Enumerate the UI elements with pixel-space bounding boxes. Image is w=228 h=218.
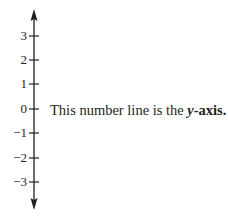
tick-label: 1 <box>5 77 27 91</box>
tick-label: −1 <box>5 126 27 140</box>
tick-label: 2 <box>5 53 27 67</box>
tick-label: −2 <box>5 151 27 165</box>
tick-label: 3 <box>5 29 27 43</box>
tick-label: −3 <box>5 175 27 189</box>
tick-label: 0 <box>5 102 27 116</box>
caption-axis-suffix: -axis. <box>194 102 227 118</box>
caption-text: This number line is the <box>50 102 187 118</box>
caption-axis-name: y-axis. <box>187 102 226 118</box>
axis-caption: This number line is the y-axis. <box>50 102 226 118</box>
